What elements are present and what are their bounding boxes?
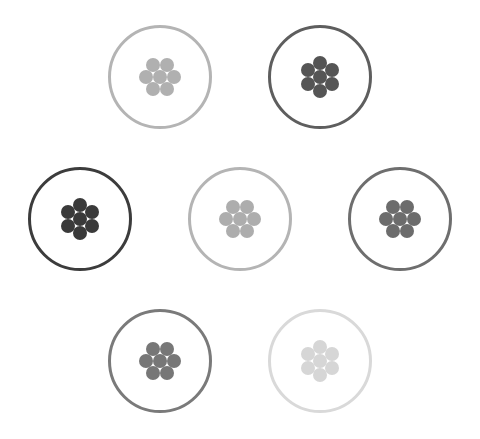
- dot: [400, 200, 414, 214]
- dot: [146, 342, 160, 356]
- dot: [226, 200, 240, 214]
- dot: [400, 224, 414, 238]
- dot: [301, 347, 315, 361]
- tile-2[interactable]: Tile 2: [268, 25, 372, 129]
- dot: [139, 354, 153, 368]
- dot: [325, 347, 339, 361]
- dot: [301, 77, 315, 91]
- dot: [325, 77, 339, 91]
- dot: [160, 58, 174, 72]
- dot: [386, 200, 400, 214]
- dot: [160, 342, 174, 356]
- dot: [219, 212, 233, 226]
- tile-6[interactable]: Tile 6: [108, 309, 212, 413]
- dot: [325, 361, 339, 375]
- dot: [73, 226, 87, 240]
- dot: [146, 366, 160, 380]
- dot: [85, 205, 99, 219]
- dot: [85, 219, 99, 233]
- tile-3[interactable]: Tile 3: [28, 167, 132, 271]
- dot: [160, 82, 174, 96]
- dot: [313, 84, 327, 98]
- dot: [301, 361, 315, 375]
- dot: [313, 368, 327, 382]
- dot: [240, 224, 254, 238]
- tile-4[interactable]: Tile 4: [188, 167, 292, 271]
- dot: [139, 70, 153, 84]
- dot: [61, 205, 75, 219]
- board-label: Hexagonal tile puzzle: [0, 0, 1, 1]
- tile-5[interactable]: Tile 5: [348, 167, 452, 271]
- dot: [146, 58, 160, 72]
- game-board: Hexagonal tile puzzle Tile 1 Tile 2 Tile…: [0, 0, 480, 439]
- dot: [386, 224, 400, 238]
- dot: [301, 63, 315, 77]
- dot: [379, 212, 393, 226]
- tile-7[interactable]: Tile 7: [268, 309, 372, 413]
- dot: [226, 224, 240, 238]
- dot: [325, 63, 339, 77]
- dot: [146, 82, 160, 96]
- dot: [61, 219, 75, 233]
- dot: [240, 200, 254, 214]
- tile-1[interactable]: Tile 1: [108, 25, 212, 129]
- dot: [160, 366, 174, 380]
